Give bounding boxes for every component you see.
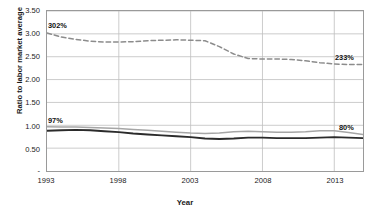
series-line-top-ratio xyxy=(47,33,363,65)
plot-area xyxy=(46,10,364,172)
x-axis-title: Year xyxy=(0,198,370,207)
x-axis-tick-label: 1993 xyxy=(26,176,66,185)
vertical-gridlines xyxy=(119,11,334,171)
x-axis-tick-label: 2008 xyxy=(243,176,283,185)
y-axis-tick-label: 1.00 xyxy=(0,122,40,131)
y-axis-tick-label: 1.50 xyxy=(0,98,40,107)
y-axis-tick-label: 0.50 xyxy=(0,145,40,154)
y-axis-tick-label: 2.50 xyxy=(0,52,40,61)
series-start-label-top: 302% xyxy=(48,21,67,30)
x-axis-tick-label: 1998 xyxy=(98,176,138,185)
series-end-label-top: 233% xyxy=(335,53,354,62)
y-axis-tick-label: - xyxy=(0,166,40,175)
series-layer xyxy=(47,33,363,139)
x-axis-tick-label: 2003 xyxy=(170,176,210,185)
plot-canvas xyxy=(47,11,363,171)
series-end-label-middle: 80% xyxy=(339,123,354,132)
y-axis-tick-label: 3.50 xyxy=(0,6,40,15)
y-axis-tick-label: 3.00 xyxy=(0,29,40,38)
x-axis-tick-label: 2013 xyxy=(315,176,355,185)
chart-figure: Ratio to labor market average 3.50 3.00 … xyxy=(0,0,370,213)
y-axis-tick-label: 2.00 xyxy=(0,75,40,84)
series-start-label-middle: 97% xyxy=(48,116,63,125)
